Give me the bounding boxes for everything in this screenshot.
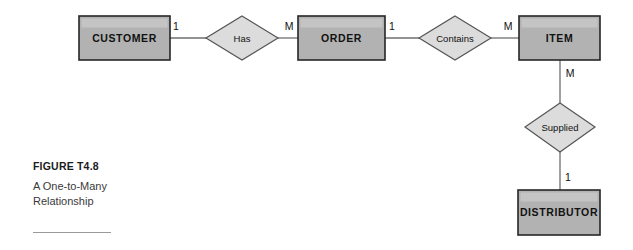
cardinality-supplied-distributor: 1 <box>565 171 571 183</box>
figure-caption-line2: Relationship <box>33 195 94 207</box>
relationship-contains-label: Contains <box>436 33 474 44</box>
er-diagram: CUSTOMER ORDER ITEM DISTRIBUTOR Has <box>0 0 633 250</box>
figure-caption-line1: A One-to-Many <box>33 180 107 192</box>
cardinality-customer-has: 1 <box>173 20 179 32</box>
entity-item[interactable]: ITEM <box>519 16 600 60</box>
caption-divider <box>33 232 111 233</box>
entity-order-label: ORDER <box>321 32 362 44</box>
entity-item-highlight <box>522 19 598 28</box>
cardinality-order-contains: 1 <box>389 20 395 32</box>
relationship-has-label: Has <box>234 33 251 44</box>
entity-distributor[interactable]: DISTRIBUTOR <box>518 190 600 235</box>
figure-caption-description: A One-to-Many Relationship <box>33 179 233 209</box>
figure-canvas: CUSTOMER ORDER ITEM DISTRIBUTOR Has <box>0 0 633 250</box>
entity-item-label: ITEM <box>546 32 573 44</box>
relationship-has[interactable]: Has <box>206 16 278 60</box>
figure-caption-title: FIGURE T4.8 <box>33 160 233 172</box>
entity-customer[interactable]: CUSTOMER <box>79 16 170 60</box>
entity-order-highlight <box>301 19 383 28</box>
relationship-supplied[interactable]: Supplied <box>525 103 595 152</box>
figure-caption: FIGURE T4.8 A One-to-Many Relationship <box>33 160 233 209</box>
entity-customer-highlight <box>82 19 168 28</box>
entity-distributor-label: DISTRIBUTOR <box>520 206 598 218</box>
entity-order[interactable]: ORDER <box>298 16 385 60</box>
cardinality-has-order: M <box>285 20 294 32</box>
entity-customer-label: CUSTOMER <box>92 32 157 44</box>
figure-caption-number: T4.8 <box>77 160 99 172</box>
figure-caption-keyword: FIGURE <box>33 160 74 172</box>
cardinality-item-supplied: M <box>566 67 575 79</box>
relationship-contains[interactable]: Contains <box>419 16 491 60</box>
entity-distributor-highlight <box>521 193 598 202</box>
cardinality-contains-item: M <box>504 20 513 32</box>
relationship-supplied-label: Supplied <box>542 122 579 133</box>
